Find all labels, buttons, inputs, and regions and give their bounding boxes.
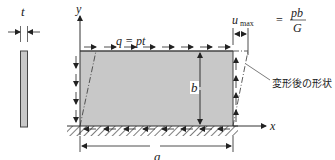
fixed-support	[67, 126, 238, 136]
plate-front-view	[80, 51, 233, 126]
height-label: b	[190, 81, 199, 94]
deformed-shape-leader	[246, 64, 270, 80]
x-axis-label: x	[270, 120, 275, 132]
y-axis-label: y	[76, 3, 81, 15]
umax-equals: =	[276, 14, 283, 26]
plate-side-view	[8, 26, 40, 127]
deformed-shape-label: 変形後の形状	[272, 79, 332, 89]
umax-numerator: pb	[291, 7, 303, 19]
thickness-label: t	[21, 5, 25, 18]
umax-denominator: G	[293, 22, 302, 34]
umax-symbol: u	[232, 14, 238, 26]
width-label: a	[154, 150, 161, 160]
load-label: q = pt	[116, 35, 145, 47]
umax-subscript: max	[240, 20, 254, 28]
